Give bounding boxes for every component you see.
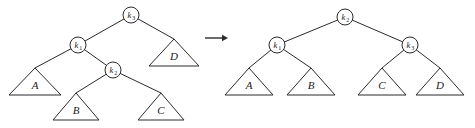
node-key-label: k (341, 12, 345, 22)
after-tree: ABCD k2k1k3 (225, 9, 464, 95)
tree-edge (76, 74, 107, 93)
arrow-head (222, 35, 228, 41)
tree-edge (85, 19, 125, 42)
node-key-subscript: 1 (79, 45, 82, 51)
subtree-triangle-b: B (53, 93, 99, 120)
tree-edge (284, 20, 338, 42)
tree-edge (120, 73, 161, 93)
tree-node-k1: k1 (70, 37, 86, 53)
subtree-label: B (308, 79, 315, 91)
before-tree-edges (35, 19, 174, 93)
subtree-triangle-d: D (416, 68, 464, 95)
node-key-label: k (74, 40, 78, 50)
tree-edge (416, 50, 440, 68)
tree-edge (84, 49, 107, 65)
node-key-label: k (406, 40, 410, 50)
node-key-label: k (127, 10, 131, 20)
tree-node-k2: k2 (337, 9, 353, 25)
subtree-label: C (157, 104, 165, 116)
node-key-subscript: 1 (278, 45, 281, 51)
transform-arrow (205, 35, 228, 41)
subtree-label: B (73, 104, 80, 116)
node-key-label: k (273, 40, 277, 50)
tree-rotation-figure: ABCD k3k1k2 ABCD k2k1k3 (0, 0, 475, 128)
before-tree-subtrees: ABCD (9, 39, 199, 120)
after-tree-subtrees: ABCD (225, 68, 464, 95)
node-key-label: k (109, 65, 113, 75)
subtree-label: A (245, 79, 253, 91)
subtree-label: C (378, 79, 386, 91)
tree-node-k3: k3 (402, 37, 418, 53)
subtree-triangle-a: A (225, 68, 273, 95)
tree-node-k3: k3 (123, 7, 139, 23)
tree-edge (283, 49, 311, 68)
tree-node-k2: k2 (105, 62, 121, 78)
tree-edge (35, 49, 71, 68)
subtree-triangle-d: D (149, 39, 199, 66)
subtree-triangle-a: A (9, 68, 61, 95)
subtree-triangle-b: B (287, 68, 335, 95)
tree-node-k1: k1 (269, 37, 285, 53)
tree-edge (382, 50, 404, 68)
subtree-triangle-c: C (358, 68, 406, 95)
tree-edge (352, 20, 403, 42)
before-tree-nodes: k3k1k2 (70, 7, 139, 78)
tree-edge (249, 50, 271, 68)
node-key-subscript: 3 (132, 15, 135, 21)
subtree-label: D (435, 79, 444, 91)
subtree-label: A (31, 79, 39, 91)
before-tree: ABCD k3k1k2 (9, 7, 199, 120)
subtree-label: D (169, 50, 178, 62)
tree-edge (138, 19, 174, 39)
after-tree-nodes: k2k1k3 (269, 9, 418, 53)
node-key-subscript: 2 (346, 17, 349, 23)
node-key-subscript: 2 (114, 70, 117, 76)
subtree-triangle-c: C (138, 93, 184, 120)
node-key-subscript: 3 (411, 45, 414, 51)
figure-canvas: ABCD k3k1k2 ABCD k2k1k3 (0, 0, 475, 128)
